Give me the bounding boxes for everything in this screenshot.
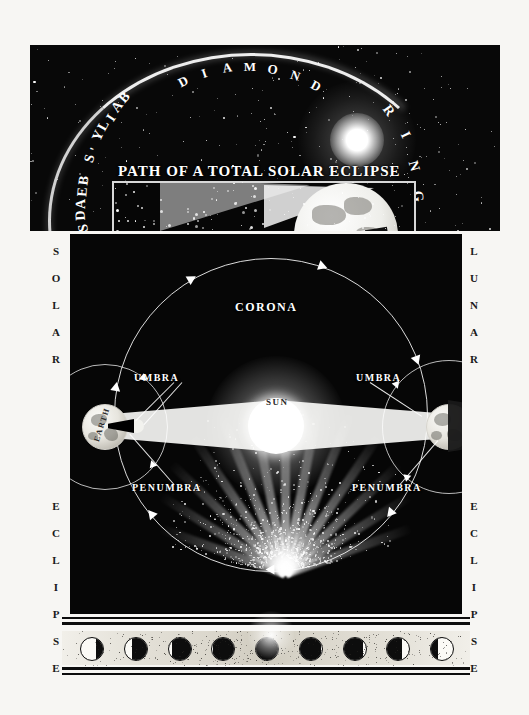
corona-stipple xyxy=(189,548,190,549)
curved-letter: E xyxy=(74,187,91,198)
band-stipple xyxy=(247,661,248,662)
band-stipple xyxy=(386,639,387,640)
corona-stipple xyxy=(323,557,324,558)
corona-stipple xyxy=(287,549,288,550)
band-stipple xyxy=(123,657,124,658)
band-stipple xyxy=(85,665,86,666)
corona-stipple xyxy=(222,522,223,523)
band-stipple xyxy=(463,662,464,663)
corona-stipple xyxy=(289,550,290,551)
star-speck xyxy=(172,95,173,96)
corona-stipple xyxy=(354,458,355,459)
star-speck xyxy=(448,84,449,85)
band-stipple xyxy=(140,634,141,635)
corona-stipple xyxy=(302,548,303,549)
band-stipple xyxy=(294,646,295,647)
band-stipple xyxy=(355,659,356,660)
band-stipple xyxy=(394,640,395,641)
side-left-letter-a: A xyxy=(48,326,64,338)
star-speck xyxy=(298,80,299,81)
band-stipple xyxy=(117,633,118,634)
band-stipple xyxy=(164,653,165,654)
band-stipple xyxy=(338,631,339,632)
side-right-letter-c: C xyxy=(466,527,482,539)
corona-stipple xyxy=(249,563,250,564)
band-stipple xyxy=(299,631,300,632)
band-stipple xyxy=(145,634,146,635)
star-speck xyxy=(326,89,327,90)
corona-stipple xyxy=(220,519,221,520)
corona-stipple xyxy=(254,533,255,534)
band-stipple xyxy=(109,650,110,651)
corona-stipple xyxy=(253,525,254,526)
corona-stipple xyxy=(369,496,371,498)
corona-stipple xyxy=(299,557,300,558)
band-stipple xyxy=(216,631,217,632)
corona-stipple xyxy=(233,528,234,529)
band-stipple xyxy=(368,664,369,665)
corona-stipple xyxy=(173,520,175,522)
corona-stipple xyxy=(217,516,218,517)
band-stipple xyxy=(240,631,241,632)
band-stipple xyxy=(397,650,398,651)
curved-letter: A xyxy=(221,59,233,76)
band-stipple xyxy=(363,653,364,654)
band-stipple xyxy=(103,652,104,653)
band-stipple xyxy=(159,637,160,638)
band-stipple xyxy=(197,652,198,653)
star-speck xyxy=(260,121,261,122)
star-speck xyxy=(139,147,140,148)
corona-stipple xyxy=(218,532,220,534)
corona-stipple xyxy=(320,560,321,561)
band-stipple xyxy=(146,648,147,649)
band-stipple xyxy=(236,647,237,648)
band-stipple xyxy=(432,657,433,658)
corona-stipple xyxy=(260,551,261,552)
star-speck xyxy=(376,52,378,54)
band-stipple xyxy=(375,637,376,638)
star-speck xyxy=(289,170,290,171)
band-stipple xyxy=(216,645,217,646)
orbit-arrowhead xyxy=(266,565,275,575)
side-left-letter-o: O xyxy=(48,272,64,284)
corona-stipple xyxy=(270,558,271,559)
corona-stipple xyxy=(261,552,263,554)
star-speck xyxy=(458,144,459,145)
corona-stipple xyxy=(246,550,247,551)
band-stipple xyxy=(240,648,241,649)
totality-burst xyxy=(248,609,294,661)
band-stipple xyxy=(223,638,224,639)
curved-letter: M xyxy=(244,59,256,75)
corona-stipple xyxy=(270,542,271,543)
band-stipple xyxy=(142,635,143,636)
band-stipple xyxy=(336,645,337,646)
star-speck xyxy=(357,49,359,51)
eclipse-plate: BAILY'S BEADS DIAMOND RING PATH OF A TOT… xyxy=(0,0,529,715)
star-speck xyxy=(167,74,168,75)
corona-stipple xyxy=(245,500,246,501)
band-stipple xyxy=(229,664,230,665)
band-stipple xyxy=(234,663,235,664)
corona-stipple xyxy=(225,557,226,558)
corona-stipple xyxy=(279,546,280,547)
star-speck xyxy=(216,199,217,200)
band-stipple xyxy=(170,644,171,645)
star-speck xyxy=(102,185,103,186)
corona-stipple xyxy=(295,510,296,511)
corona-stipple xyxy=(214,533,215,534)
band-stipple xyxy=(322,645,323,646)
band-stipple xyxy=(388,662,389,663)
corona-stipple xyxy=(300,556,301,557)
corona-stipple xyxy=(272,541,273,542)
corona-stipple xyxy=(230,516,231,517)
corona-stipple xyxy=(331,511,332,512)
star-speck xyxy=(195,213,198,216)
corona-stipple xyxy=(349,546,351,548)
band-stipple xyxy=(193,649,194,650)
band-stipple xyxy=(188,659,189,660)
star-speck xyxy=(481,197,482,198)
band-stipple xyxy=(197,653,198,654)
band-stipple xyxy=(376,644,377,645)
corona-stipple xyxy=(333,546,334,547)
band-stipple xyxy=(129,638,130,639)
